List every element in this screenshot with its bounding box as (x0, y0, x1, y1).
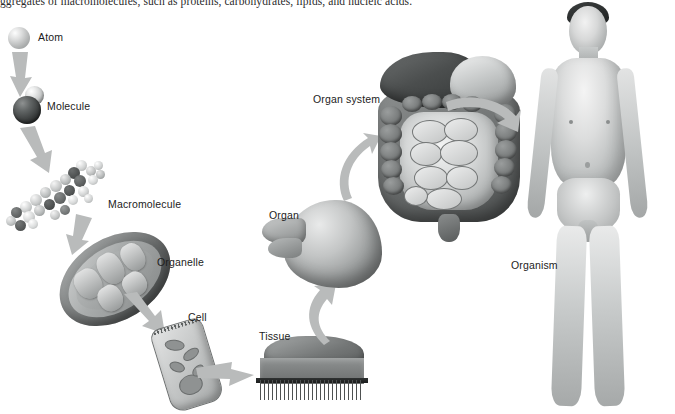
level-label-tissue: Tissue (259, 330, 290, 342)
level-label-atom: Atom (38, 31, 63, 43)
molecule-sphere-dark (13, 96, 41, 124)
level-label-organelle: Organelle (157, 256, 204, 268)
arrow-tissue-to-organ (296, 284, 342, 346)
organism-human-figure (512, 2, 664, 404)
arrow-cell-to-tissue (196, 362, 258, 390)
level-label-molecule: Molecule (47, 100, 90, 112)
atom-sphere (8, 27, 30, 49)
arrow-organ-to-organ-system (330, 132, 382, 202)
level-label-organ-system: Organ system (313, 93, 380, 105)
organ-system-digestive (376, 46, 522, 242)
level-label-macromolecule: Macromolecule (108, 198, 181, 210)
level-label-organ: Organ (269, 209, 299, 221)
level-label-organism: Organism (511, 259, 558, 271)
level-label-cell: Cell (188, 311, 207, 323)
arrow-organ-system-to-organism (446, 96, 522, 140)
